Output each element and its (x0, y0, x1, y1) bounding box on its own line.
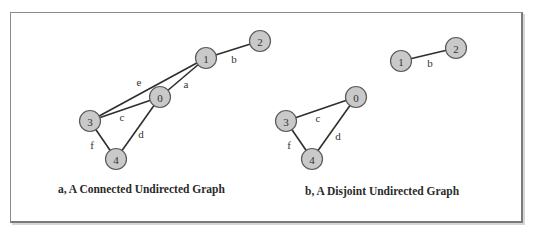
node-label: 0 (353, 92, 359, 104)
edge-label-a: a (184, 78, 189, 90)
node-0: 0 (346, 87, 367, 108)
edge-d (312, 97, 356, 159)
graph-figure: abcdef01234 bcdf01234 (0, 0, 536, 233)
caption-connected-graph: a, A Connected Undirected Graph (58, 183, 225, 195)
node-label: 1 (203, 53, 209, 65)
node-1: 1 (196, 48, 217, 69)
edge-label-d: d (335, 130, 341, 142)
edge-label-f: f (287, 139, 291, 151)
node-label: 2 (453, 43, 459, 55)
node-2: 2 (446, 38, 467, 59)
caption-disjoint-graph: b, A Disjoint Undirected Graph (305, 185, 459, 197)
node-label: 4 (113, 154, 119, 166)
node-4: 4 (106, 149, 127, 170)
node-3: 3 (276, 111, 297, 132)
edge-label-b: b (427, 57, 433, 69)
node-label: 4 (309, 154, 315, 166)
node-label: 0 (157, 92, 163, 104)
connected-graph: abcdef01234 (80, 31, 271, 170)
edge-label-c: c (120, 111, 125, 123)
edge-label-e: e (137, 76, 142, 88)
node-label: 3 (283, 116, 289, 128)
node-2: 2 (250, 31, 271, 52)
node-label: 1 (398, 56, 404, 68)
edge-label-b: b (231, 53, 237, 65)
node-3: 3 (80, 111, 101, 132)
edge-label-f: f (90, 139, 94, 151)
node-1: 1 (391, 51, 412, 72)
edge-label-c: c (316, 112, 321, 124)
edge-e (90, 58, 206, 121)
node-0: 0 (150, 87, 171, 108)
node-label: 3 (87, 116, 93, 128)
node-label: 2 (257, 36, 263, 48)
disjoint-graph: bcdf01234 (276, 38, 467, 170)
edge-label-d: d (138, 128, 144, 140)
node-4: 4 (302, 149, 323, 170)
